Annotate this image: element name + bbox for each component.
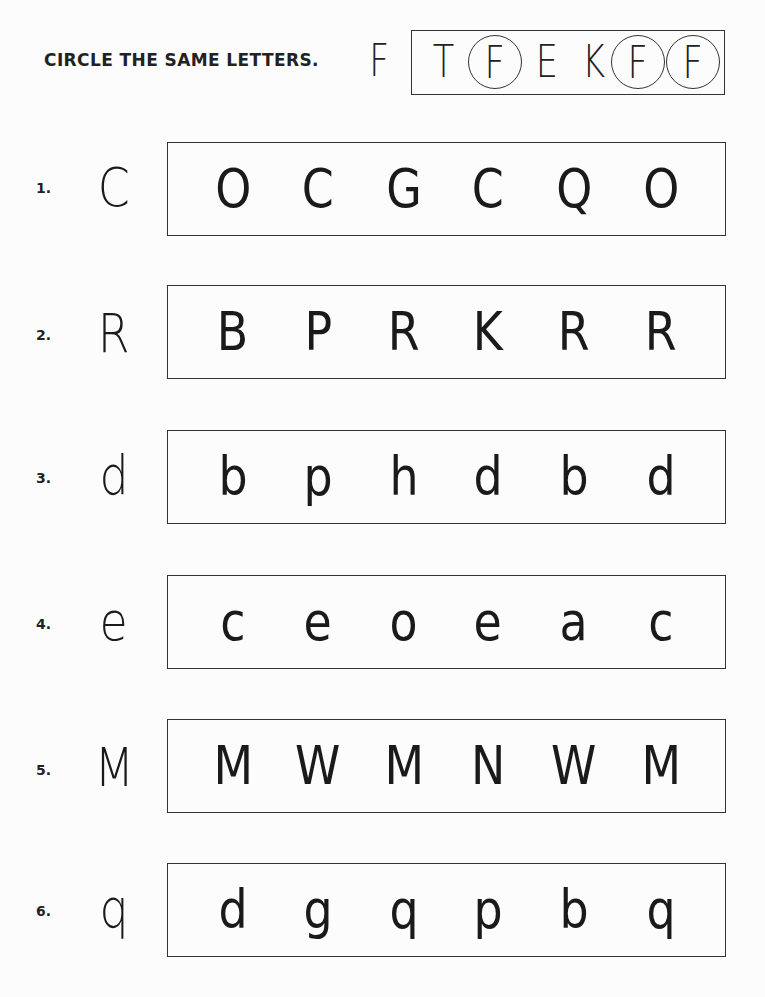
options-box: M W M N W M (167, 719, 726, 813)
letter-option[interactable]: K (453, 302, 523, 362)
row-number: 4. (36, 616, 62, 632)
letter-option[interactable]: C (453, 159, 523, 219)
letter-option[interactable]: p (453, 880, 523, 940)
row-target-letter: R (84, 304, 144, 364)
letter-option[interactable]: b (539, 447, 609, 507)
letter-option[interactable]: e (283, 592, 353, 652)
row-number: 1. (36, 180, 62, 196)
instruction-heading: CIRCLE THE SAME LETTERS. (44, 50, 319, 70)
letter-option[interactable]: g (283, 880, 353, 940)
letter-option[interactable]: M (198, 736, 268, 796)
letter-option[interactable]: G (369, 159, 439, 219)
example-target-letter: F (369, 36, 389, 86)
letter-option[interactable]: O (626, 159, 696, 219)
letter-option[interactable]: B (198, 302, 268, 362)
letter-option[interactable]: P (283, 302, 353, 362)
example-box: T F E K F F (411, 30, 725, 95)
letter-option[interactable]: M (369, 736, 439, 796)
row-number: 2. (36, 327, 62, 343)
letter-option[interactable]: R (539, 302, 609, 362)
options-box: d g q p b q (167, 863, 726, 957)
letter-option[interactable]: N (453, 736, 523, 796)
letter-option[interactable]: d (198, 880, 268, 940)
letter-option[interactable]: p (283, 447, 353, 507)
example-option-circled[interactable]: F (666, 35, 720, 89)
letter-option[interactable]: b (539, 880, 609, 940)
example-option-circled[interactable]: F (611, 35, 665, 89)
row-target-letter: C (84, 158, 144, 218)
letter-option[interactable]: b (198, 447, 268, 507)
letter-option[interactable]: M (626, 736, 696, 796)
letter-option[interactable]: C (283, 159, 353, 219)
letter-option[interactable]: q (626, 880, 696, 940)
row-number: 5. (36, 762, 62, 778)
letter-option[interactable]: c (198, 592, 268, 652)
row-number: 3. (36, 470, 62, 486)
letter-option[interactable]: Q (539, 159, 609, 219)
letter-option[interactable]: O (198, 159, 268, 219)
letter-option[interactable]: d (626, 447, 696, 507)
row-number: 6. (36, 903, 62, 919)
row-target-letter: d (84, 446, 144, 506)
letter-option[interactable]: c (626, 592, 696, 652)
options-box: O C G C Q O (167, 142, 726, 236)
options-box: c e o e a c (167, 575, 726, 669)
letter-option[interactable]: W (283, 736, 353, 796)
row-target-letter: q (84, 879, 144, 939)
letter-option[interactable]: o (369, 592, 439, 652)
letter-option[interactable]: R (369, 302, 439, 362)
options-box: b p h d b d (167, 430, 726, 524)
letter-option[interactable]: h (369, 447, 439, 507)
example-option[interactable]: T (416, 35, 470, 89)
row-target-letter: M (84, 738, 144, 798)
letter-option[interactable]: W (539, 736, 609, 796)
letter-option[interactable]: d (453, 447, 523, 507)
row-target-letter: e (84, 592, 144, 652)
letter-option[interactable]: R (626, 302, 696, 362)
options-box: B P R K R R (167, 285, 726, 379)
letter-option[interactable]: e (453, 592, 523, 652)
example-option-circled[interactable]: F (468, 35, 522, 89)
letter-option[interactable]: a (539, 592, 609, 652)
letter-option[interactable]: q (369, 880, 439, 940)
